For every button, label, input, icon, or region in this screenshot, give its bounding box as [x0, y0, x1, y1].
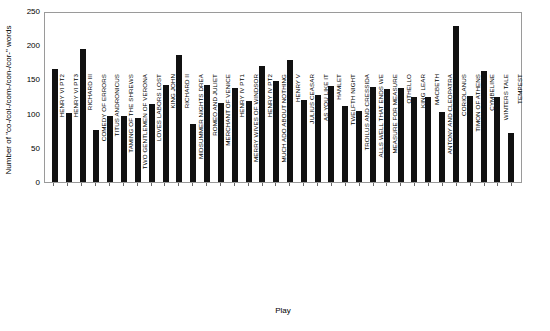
x-label-slot: MERRY WIVES OF WINDSOR: [241, 186, 255, 298]
x-axis-category-label: MACBETH: [433, 74, 440, 186]
x-label-slot: KING JOHN: [158, 186, 172, 298]
bar: [80, 49, 86, 182]
x-label-slot: ALLS WELL THAT ENDS WE: [366, 186, 380, 298]
x-label-slot: OTHELLO: [394, 186, 408, 298]
x-label-slot: HENRY IV PT2: [255, 186, 269, 298]
bar: [93, 130, 99, 182]
x-axis-category-label: MUCH ADO ABOUT NOTHING: [280, 74, 287, 186]
bar: [218, 103, 224, 182]
x-axis-category-label: CYMBELINE: [488, 74, 495, 186]
bar: [481, 71, 487, 182]
bar: [453, 26, 459, 182]
bar: [52, 69, 58, 182]
x-axis-category-label: TROILUS AND CRESSIDA: [363, 74, 370, 186]
x-label-slot: ROMEO AND JULIET: [200, 186, 214, 298]
x-axis-category-label: RICHARD II: [183, 74, 190, 186]
x-axis-category-label: JULIUS CEASAR: [308, 74, 315, 186]
x-axis-category-label: MEASURE FOR MEASURE: [391, 74, 398, 186]
x-label-slot: ANTONY AND CLEOPATRA: [436, 186, 450, 298]
x-label-slot: RICHARD II: [172, 186, 186, 298]
bar: [287, 60, 293, 182]
bar: [315, 95, 321, 182]
x-axis-tick-labels: HENRY VI PT2HENRY VI PT3RICHARD IIICOMED…: [44, 186, 522, 298]
x-label-slot: KING LEAR: [408, 186, 422, 298]
x-label-slot: CORIOLANUS: [449, 186, 463, 298]
bar: [259, 66, 265, 182]
x-label-slot: TITUS ANDRONICUS: [103, 186, 117, 298]
bar: [384, 89, 390, 182]
y-axis-tick-label: 250: [18, 8, 40, 16]
x-axis-category-label: TAMING OF THE SHREWS: [127, 74, 134, 186]
x-label-slot: HENRY VI PT3: [61, 186, 75, 298]
bar: [398, 88, 404, 182]
bar-chart-figure: Number of "co-/col-/com-/con-/cor-" word…: [0, 0, 550, 331]
x-axis-category-label: ALLS WELL THAT ENDS WE: [377, 74, 384, 186]
x-axis-category-label: TEMPEST: [516, 74, 523, 186]
y-axis-tick-label: 200: [18, 42, 40, 50]
x-axis-category-label: OTHELLO: [405, 74, 412, 186]
x-label-slot: TAMING OF THE SHREWS: [116, 186, 130, 298]
x-axis-title: Play: [44, 306, 522, 316]
x-axis-category-label: HENRY VI PT3: [72, 74, 79, 186]
x-axis-category-label: RICHARD III: [86, 74, 93, 186]
x-label-slot: MUCH ADO ABOUT NOTHING: [269, 186, 283, 298]
bar: [342, 106, 348, 182]
x-label-slot: MEASURE FOR MEASURE: [380, 186, 394, 298]
x-axis-category-label: HENRY V: [294, 74, 301, 186]
x-axis-category-label: KING LEAR: [419, 74, 426, 186]
bar: [204, 85, 210, 182]
x-axis-category-label: KING JOHN: [169, 74, 176, 186]
x-label-slot: MERCHANT OF VENICE: [214, 186, 228, 298]
x-axis-category-label: HENRY IV PT2: [266, 74, 273, 186]
x-label-slot: LOVES LABORS LOST: [144, 186, 158, 298]
x-axis-category-label: HAMLET: [335, 74, 342, 186]
x-axis-category-label: MERRY WIVES OF WINDSOR: [252, 74, 259, 186]
bar: [467, 96, 473, 182]
x-label-slot: HAMLET: [325, 186, 339, 298]
y-axis-tick-label: 150: [18, 76, 40, 84]
bar: [328, 86, 334, 182]
x-axis-category-label: TWELFTH NIGHT: [349, 74, 356, 186]
x-axis-category-label: ANTONY AND CLEOPATRA: [446, 74, 453, 186]
x-axis-category-label: AS YOU LIKE IT: [322, 74, 329, 186]
x-axis-category-label: COMEDY OF ERRORS: [100, 74, 107, 186]
x-label-slot: TROILUS AND CRESSIDA: [352, 186, 366, 298]
bar: [149, 104, 155, 182]
x-axis-category-label: ROMEO AND JULIET: [211, 74, 218, 186]
x-axis-category-label: HENRY IV PT1: [238, 74, 245, 186]
x-label-slot: CYMBELINE: [477, 186, 491, 298]
x-label-slot: JULIUS CEASAR: [297, 186, 311, 298]
bar: [176, 55, 182, 182]
y-axis-tick-label: 100: [18, 111, 40, 119]
x-axis-category-label: MIDSUMMER NIGHTS DREA: [197, 74, 204, 186]
x-axis-category-label: HENRY VI PT2: [58, 74, 65, 186]
bar: [232, 88, 238, 182]
bar: [135, 118, 141, 182]
bar: [246, 101, 252, 182]
x-axis-category-label: WINTERS TALE: [502, 74, 509, 186]
bar: [494, 97, 500, 182]
x-label-slot: HENRY V: [283, 186, 297, 298]
y-axis-tick-labels: 050100150200250: [16, 0, 40, 331]
x-axis-category-label: TWO GENTLEMEN OF VERONA: [141, 74, 148, 186]
bar: [163, 85, 169, 182]
y-axis-tick-label: 0: [18, 179, 40, 187]
x-label-slot: TIMON OF ATHENS: [463, 186, 477, 298]
bar: [273, 81, 279, 182]
bar: [411, 97, 417, 182]
x-axis-category-label: TITUS ANDRONICUS: [113, 74, 120, 186]
bar: [508, 133, 514, 182]
y-axis-title: Number of "co-/col-/com-/con-/cor-" word…: [2, 5, 16, 195]
x-label-slot: HENRY IV PT1: [227, 186, 241, 298]
x-axis-category-label: MERCHANT OF VENICE: [224, 74, 231, 186]
bar: [356, 111, 362, 182]
x-label-slot: MACBETH: [422, 186, 436, 298]
x-label-slot: TWELFTH NIGHT: [338, 186, 352, 298]
bar: [425, 97, 431, 182]
x-label-slot: TEMPEST: [505, 186, 519, 298]
x-axis-category-label: CORIOLANUS: [460, 74, 467, 186]
bar: [301, 100, 307, 182]
x-label-slot: TWO GENTLEMEN OF VERONA: [130, 186, 144, 298]
x-label-slot: RICHARD III: [75, 186, 89, 298]
x-label-slot: MIDSUMMER NIGHTS DREA: [186, 186, 200, 298]
